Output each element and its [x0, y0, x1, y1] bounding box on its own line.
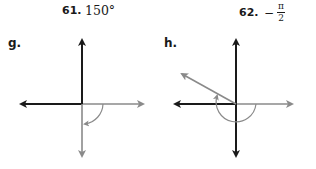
h-terminal-side: [182, 74, 236, 104]
angle-diagrams: [0, 0, 316, 169]
diagram-h: [175, 40, 292, 156]
g-rotation-arc: [85, 104, 103, 124]
diagram-g: [21, 40, 143, 156]
